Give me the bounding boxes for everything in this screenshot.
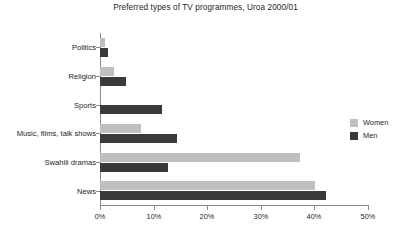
bar-men bbox=[100, 163, 168, 172]
category-label: Politics bbox=[72, 43, 96, 52]
bar-men bbox=[100, 105, 162, 114]
bar-men bbox=[100, 191, 326, 200]
legend-swatch-men-icon bbox=[350, 132, 358, 140]
category-label: Swahili dramas bbox=[45, 158, 97, 167]
bar-men bbox=[100, 134, 177, 143]
x-axis-tick-label: 30% bbox=[254, 212, 269, 221]
x-axis-tick-label: 50% bbox=[361, 212, 376, 221]
bar-women bbox=[100, 181, 315, 190]
x-axis-tick-label: 10% bbox=[147, 212, 162, 221]
bar-women bbox=[100, 67, 114, 76]
chart-legend: Women Men bbox=[350, 117, 388, 143]
category-label: News bbox=[77, 186, 96, 195]
legend-swatch-women-icon bbox=[350, 119, 358, 127]
legend-label-women: Women bbox=[363, 118, 388, 127]
bar-chart: Preferred types of TV programmes, Uroa 2… bbox=[0, 0, 411, 234]
x-axis-tick bbox=[261, 206, 262, 210]
category-label: Religion bbox=[69, 72, 96, 81]
x-axis-tick bbox=[314, 206, 315, 210]
bar-men bbox=[100, 48, 108, 57]
category-label: Music, films, talk shows bbox=[17, 129, 96, 138]
x-axis-tick-label: 0% bbox=[95, 212, 106, 221]
x-axis-tick-label: 20% bbox=[200, 212, 215, 221]
legend-label-men: Men bbox=[363, 131, 377, 140]
x-axis-tick-label: 40% bbox=[307, 212, 322, 221]
legend-item-men: Men bbox=[350, 130, 388, 141]
category-label: Sports bbox=[74, 100, 96, 109]
chart-title: Preferred types of TV programmes, Uroa 2… bbox=[0, 3, 411, 12]
x-axis-tick bbox=[154, 206, 155, 210]
x-axis-tick bbox=[368, 206, 369, 210]
bar-women bbox=[100, 38, 105, 47]
x-axis-line bbox=[100, 205, 369, 206]
x-axis-tick bbox=[100, 206, 101, 210]
plot-area bbox=[100, 33, 368, 205]
bar-women bbox=[100, 153, 300, 162]
bar-women bbox=[100, 124, 141, 133]
bar-men bbox=[100, 77, 126, 86]
legend-item-women: Women bbox=[350, 117, 388, 128]
x-axis-tick bbox=[207, 206, 208, 210]
